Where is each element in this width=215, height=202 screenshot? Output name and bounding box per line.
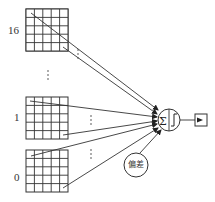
perceptron-diagram: Σ [0, 0, 215, 202]
connection-0-first [31, 124, 157, 156]
output-node [180, 114, 207, 126]
connection-16-last [63, 47, 157, 114]
input-grid-16-lines [26, 9, 68, 51]
connection-16-first [31, 13, 158, 110]
neuron-node: Σ [158, 109, 180, 131]
sum-icon: Σ [159, 115, 167, 128]
input-label-0: 0 [14, 172, 20, 183]
bias-label: 偏差 [124, 161, 148, 169]
input-label-16: 16 [8, 25, 19, 36]
connection-bias [140, 130, 161, 153]
input-label-1: 1 [14, 112, 20, 123]
input-grid-0 [26, 150, 68, 192]
connection-1-first [30, 101, 157, 117]
